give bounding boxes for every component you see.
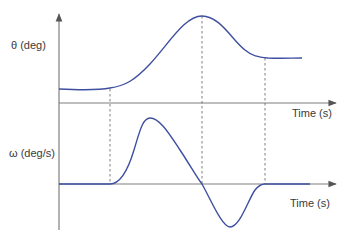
theta-axis-label: θ (deg) [11, 40, 46, 51]
bottom-time-label: Time (s) [290, 198, 330, 209]
angle-velocity-diagram: θ (deg) Time (s) ω (deg/s) Time (s) [0, 0, 344, 243]
top-time-label: Time (s) [292, 108, 332, 119]
omega-axis-label: ω (deg/s) [9, 148, 55, 159]
theta-curve [59, 16, 302, 90]
omega-curve [59, 118, 310, 227]
